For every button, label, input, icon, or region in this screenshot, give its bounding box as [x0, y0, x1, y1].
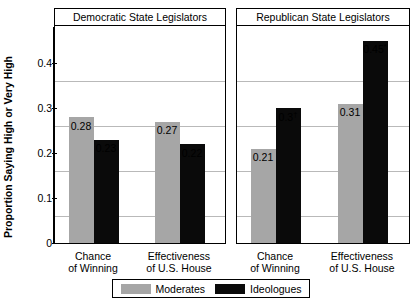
y-axis-title-text: Proportion Saying High or Very High: [2, 56, 14, 238]
gridline-0.4: [55, 81, 225, 82]
x-category-rep-effectiveness: Effectiveness of U.S. House: [329, 250, 394, 274]
bar-label-rep-effectiveness-ideologues: 0.45*: [363, 43, 386, 55]
legend-label-ideologues: Ideologues: [250, 283, 301, 295]
x-category-dem-effectiveness: Effectiveness of U.S. House: [146, 250, 211, 274]
panel-republican-title: Republican State Legislators: [237, 9, 409, 26]
bar-dem-effectiveness-moderates: [155, 122, 180, 244]
legend-swatch-moderates: [121, 284, 151, 294]
x-category-dem-effectiveness-line2: of U.S. House: [146, 262, 211, 274]
legend-swatch-ideologues: [215, 284, 245, 294]
bar-label-dem-effectiveness-moderates: 0.27: [157, 124, 177, 136]
bar-dem-chance-moderates: [69, 117, 94, 243]
bar-label-dem-chance-ideologues: 0.23: [96, 142, 116, 154]
x-category-rep-effectiveness-line2: of U.S. House: [329, 262, 394, 274]
bar-label-rep-chance-moderates: 0.21: [253, 151, 273, 163]
y-axis-title: Proportion Saying High or Very High: [0, 34, 16, 260]
panel-democratic-title: Democratic State Legislators: [55, 9, 225, 26]
y-tick-0.3: 0.3: [26, 102, 52, 114]
bar-label-dem-chance-moderates: 0.28: [71, 120, 91, 132]
bar-chart-figure: Proportion Saying High or Very High 0 0.…: [0, 0, 419, 306]
panel-republican-title-text: Republican State Legislators: [256, 11, 390, 23]
bar-label-rep-effectiveness-moderates: 0.31: [340, 106, 360, 118]
y-tick-0.2: 0.2: [26, 147, 52, 159]
x-category-rep-chance: Chance of Winning: [250, 250, 300, 274]
bar-rep-chance-ideologues: [276, 108, 301, 243]
x-category-dem-chance: Chance of Winning: [68, 250, 118, 274]
bar-dem-chance-ideologues: [94, 140, 119, 244]
bar-rep-effectiveness-moderates: [338, 104, 363, 244]
x-category-rep-chance-line1: Chance: [250, 250, 300, 262]
panel-republican-plot: 0.21 0.3† 0.31 0.45*: [237, 26, 409, 243]
x-category-rep-effectiveness-line1: Effectiveness: [329, 250, 394, 262]
legend-entry-ideologues: Ideologues: [215, 283, 301, 295]
y-tick-0.1: 0.1: [26, 192, 52, 204]
x-category-dem-chance-line1: Chance: [68, 250, 118, 262]
bar-label-dem-effectiveness-ideologues: 0.22: [182, 147, 202, 159]
legend-entry-moderates: Moderates: [121, 283, 206, 295]
y-tick-0.4: 0.4: [26, 57, 52, 69]
panel-democratic: Democratic State Legislators 0.28 0.23 0…: [54, 8, 226, 244]
panel-republican: Republican State Legislators 0.21 0.3† 0…: [236, 8, 410, 244]
panel-democratic-plot: 0.28 0.23 0.27 0.22: [55, 26, 225, 243]
legend-label-moderates: Moderates: [156, 283, 206, 295]
bar-label-rep-chance-ideologues: 0.3†: [279, 111, 298, 123]
x-category-dem-effectiveness-line1: Effectiveness: [146, 250, 211, 262]
chart-legend: Moderates Ideologues: [112, 279, 310, 298]
y-tick-0: 0: [26, 237, 52, 249]
y-axis-ticks: 0 0.1 0.2 0.3 0.4: [18, 0, 52, 306]
x-category-dem-chance-line2: of Winning: [68, 262, 118, 274]
bar-rep-effectiveness-ideologues: [363, 41, 388, 244]
x-category-rep-chance-line2: of Winning: [250, 262, 300, 274]
panel-democratic-title-text: Democratic State Legislators: [73, 11, 207, 23]
